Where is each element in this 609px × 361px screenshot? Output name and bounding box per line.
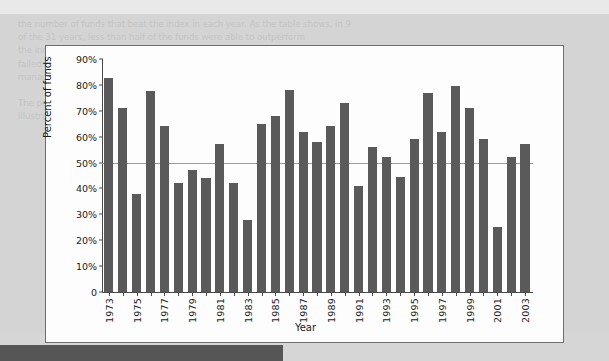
bar xyxy=(451,86,460,292)
x-tick-mark xyxy=(331,292,332,296)
x-tick-mark xyxy=(442,292,443,296)
bar xyxy=(299,132,308,293)
bar xyxy=(437,132,446,293)
x-tick-label: 1997 xyxy=(437,298,448,323)
x-tick-mark xyxy=(178,292,179,296)
bar xyxy=(229,183,238,292)
bar xyxy=(215,144,224,292)
bar xyxy=(465,108,474,292)
x-tick-mark xyxy=(345,292,346,296)
x-axis-title: Year xyxy=(46,322,565,333)
chart-figure: Percent of funds Year 010%20%30%40%50%60… xyxy=(45,45,564,343)
x-tick-label: 1975 xyxy=(132,298,143,323)
bar xyxy=(285,90,294,292)
bar xyxy=(354,186,363,292)
x-tick-mark xyxy=(386,292,387,296)
bar xyxy=(396,177,405,292)
x-tick-label: 1985 xyxy=(270,298,281,323)
bar xyxy=(340,103,349,292)
bar xyxy=(493,227,502,292)
bar xyxy=(410,139,419,292)
x-tick-mark xyxy=(234,292,235,296)
bar xyxy=(188,170,197,292)
x-tick-mark xyxy=(400,292,401,296)
x-tick-mark xyxy=(303,292,304,296)
chart-canvas: Percent of funds Year 010%20%30%40%50%60… xyxy=(46,46,563,342)
bar xyxy=(146,91,155,292)
x-tick-mark xyxy=(220,292,221,296)
x-tick-mark xyxy=(456,292,457,296)
x-tick-mark xyxy=(109,292,110,296)
x-tick-mark xyxy=(248,292,249,296)
x-tick-mark xyxy=(317,292,318,296)
x-tick-mark xyxy=(359,292,360,296)
bar xyxy=(423,93,432,292)
bar xyxy=(118,108,127,292)
bar xyxy=(160,126,169,292)
bar xyxy=(201,178,210,292)
x-tick-label: 1973 xyxy=(104,298,115,323)
x-tick-label: 1979 xyxy=(187,298,198,323)
x-tick-mark xyxy=(483,292,484,296)
x-tick-mark xyxy=(151,292,152,296)
x-tick-label: 1989 xyxy=(326,298,337,323)
x-tick-mark xyxy=(414,292,415,296)
x-tick-mark xyxy=(289,292,290,296)
x-tick-mark xyxy=(511,292,512,296)
x-tick-label: 1987 xyxy=(298,298,309,323)
x-tick-mark xyxy=(275,292,276,296)
x-tick-mark xyxy=(428,292,429,296)
document-page: the number of funds that beat the index … xyxy=(0,14,609,333)
x-tick-mark xyxy=(497,292,498,296)
x-tick-label: 1999 xyxy=(465,298,476,323)
x-tick-label: 1977 xyxy=(159,298,170,323)
bar xyxy=(243,220,252,292)
x-tick-mark xyxy=(192,292,193,296)
bar xyxy=(382,157,391,292)
x-tick-label: 1983 xyxy=(243,298,254,323)
plot-area: 010%20%30%40%50%60%70%80%90% 19731975197… xyxy=(102,59,532,292)
x-tick-mark xyxy=(525,292,526,296)
x-tick-mark xyxy=(206,292,207,296)
x-tick-label: 2001 xyxy=(492,298,503,323)
x-tick-label: 1995 xyxy=(409,298,420,323)
x-tick-mark xyxy=(137,292,138,296)
bar xyxy=(257,124,266,292)
bar xyxy=(174,183,183,292)
y-axis-title: Percent of funds xyxy=(42,57,53,138)
x-tick-label: 1993 xyxy=(381,298,392,323)
bar xyxy=(368,147,377,292)
bottom-accent-bar xyxy=(0,345,283,361)
bar xyxy=(479,139,488,292)
bar xyxy=(271,116,280,292)
x-tick-label: 2003 xyxy=(520,298,531,323)
x-tick-label: 1981 xyxy=(215,298,226,323)
x-tick-mark xyxy=(470,292,471,296)
x-tick-mark xyxy=(164,292,165,296)
x-tick-label: 1991 xyxy=(354,298,365,323)
x-tick-mark xyxy=(372,292,373,296)
bar xyxy=(104,78,113,292)
bar xyxy=(326,126,335,292)
page-top-strip xyxy=(0,0,609,14)
bar xyxy=(312,142,321,292)
bar xyxy=(520,144,529,292)
bar xyxy=(507,157,516,292)
bar xyxy=(132,194,141,292)
bar-series xyxy=(102,59,532,292)
x-tick-mark xyxy=(123,292,124,296)
x-tick-mark xyxy=(262,292,263,296)
